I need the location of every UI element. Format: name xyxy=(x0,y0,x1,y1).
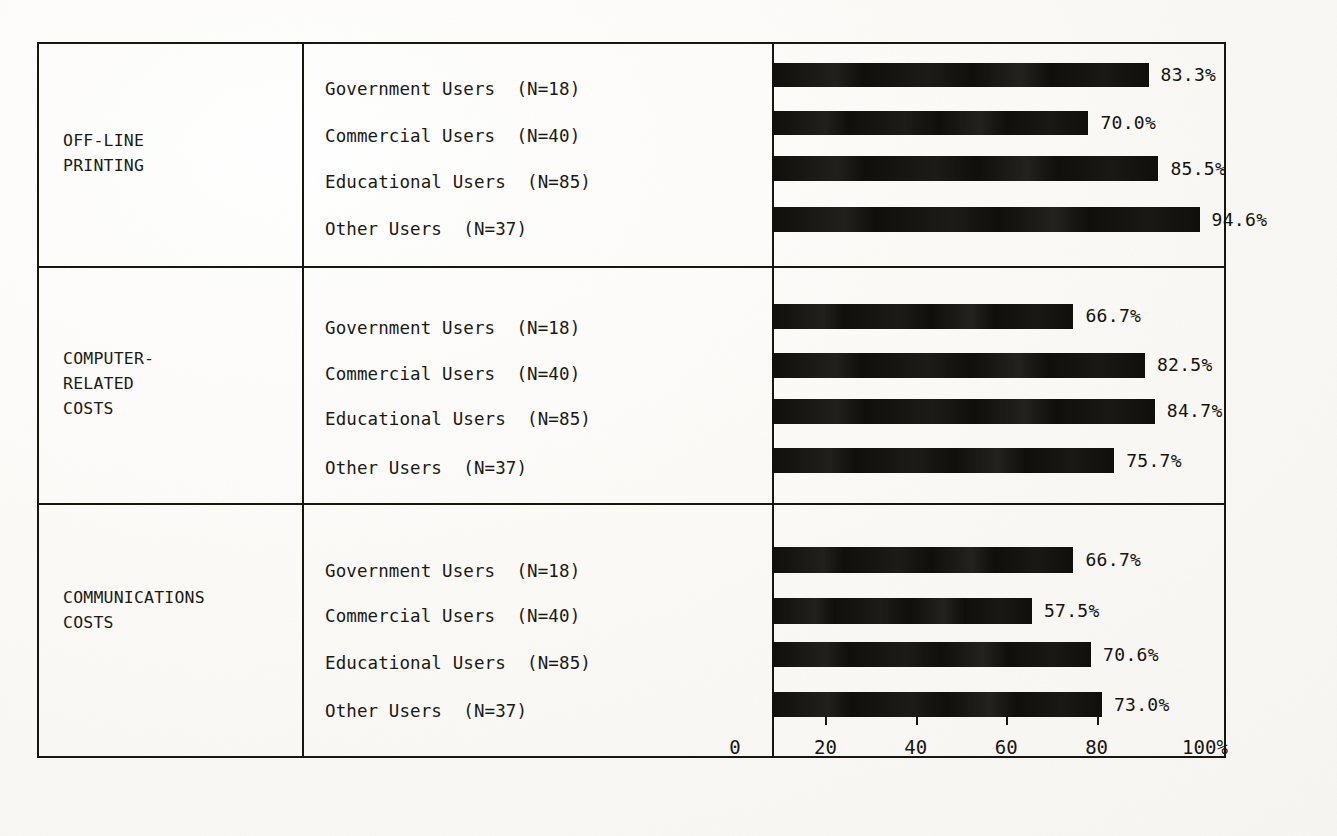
bar-value-label: 66.7% xyxy=(1085,550,1141,570)
bar-value-label: 83.3% xyxy=(1161,65,1217,85)
bar-value-label: 57.5% xyxy=(1044,601,1100,621)
bar-value-label: 75.7% xyxy=(1126,451,1182,471)
group-label-communications-costs: COMMUNICATIONS COSTS xyxy=(63,585,313,635)
series-label: Educational Users (N=85) xyxy=(325,409,591,429)
bar xyxy=(772,692,1102,717)
axis-tick xyxy=(1006,716,1008,725)
axis-tick-label: 100% xyxy=(1182,736,1228,758)
chart-frame: OFF-LINE PRINTING COMPUTER- RELATED COST… xyxy=(37,42,1226,758)
axis-tick xyxy=(916,716,918,725)
bar xyxy=(772,304,1073,329)
bar-value-label: 94.6% xyxy=(1212,210,1268,230)
bar xyxy=(772,207,1200,232)
bar xyxy=(772,448,1114,473)
series-label: Government Users (N=18) xyxy=(325,561,580,581)
bar xyxy=(772,353,1145,378)
series-label: Educational Users (N=85) xyxy=(325,653,591,673)
bar-value-label: 84.7% xyxy=(1167,401,1223,421)
series-label: Government Users (N=18) xyxy=(325,318,580,338)
series-label: Commercial Users (N=40) xyxy=(325,126,580,146)
group-label-off-line-printing: OFF-LINE PRINTING xyxy=(63,128,313,178)
bar xyxy=(772,598,1032,624)
axis-tick-label: 20 xyxy=(814,736,837,758)
series-label: Other Users (N=37) xyxy=(325,458,527,478)
bar-value-label: 85.5% xyxy=(1170,159,1226,179)
bar xyxy=(772,642,1091,667)
frame-left-border xyxy=(37,42,39,758)
series-label: Government Users (N=18) xyxy=(325,79,580,99)
series-label: Educational Users (N=85) xyxy=(325,172,591,192)
axis-tick xyxy=(825,716,827,725)
bar xyxy=(772,63,1149,87)
bar xyxy=(772,399,1155,424)
series-label: Commercial Users (N=40) xyxy=(325,364,580,384)
axis-tick-label: 80 xyxy=(1085,736,1108,758)
bar-value-label: 82.5% xyxy=(1157,355,1213,375)
bar-value-label: 70.0% xyxy=(1100,113,1156,133)
series-label: Other Users (N=37) xyxy=(325,701,527,721)
bar xyxy=(772,111,1088,135)
x-axis: 020406080100% xyxy=(735,716,1235,796)
series-label: Commercial Users (N=40) xyxy=(325,606,580,626)
plot-area: 83.3% 70.0% 85.5% 94.6% 66.7% 82.5% 84.7… xyxy=(772,42,1226,758)
axis-tick-label: 60 xyxy=(995,736,1018,758)
series-label: Other Users (N=37) xyxy=(325,219,527,239)
bar-value-label: 66.7% xyxy=(1085,306,1141,326)
bar-value-label: 70.6% xyxy=(1103,645,1159,665)
group-label-computer-related-costs: COMPUTER- RELATED COSTS xyxy=(63,346,313,421)
bar-value-label: 73.0% xyxy=(1114,695,1170,715)
axis-tick xyxy=(1097,716,1099,725)
axis-tick-label: 0 xyxy=(729,736,740,758)
bar xyxy=(772,156,1158,181)
bar xyxy=(772,547,1073,573)
axis-tick-label: 40 xyxy=(904,736,927,758)
